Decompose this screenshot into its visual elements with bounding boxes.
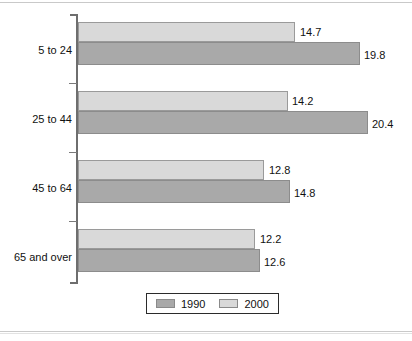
bar-5-to-24-2000[interactable] [78,22,295,42]
bar-65-and-over-1990[interactable] [78,249,260,272]
category-label-25-to-44: 25 to 44 [4,113,72,125]
frame-bottom-rule-secondary [0,333,412,334]
value-label-45-to-64-1990: 14.8 [294,187,315,199]
axis-top-cap [70,14,78,16]
legend-label-2000: 2000 [244,298,268,310]
value-label-25-to-44-2000: 14.2 [292,95,313,107]
dark-swatch-icon [156,299,175,308]
bar-65-and-over-2000[interactable] [78,229,255,249]
bar-5-to-24-1990[interactable] [78,42,360,65]
value-label-65-and-over-2000: 12.2 [260,233,281,245]
axis-tick-2 [69,152,77,153]
legend-label-1990: 1990 [181,298,205,310]
value-label-65-and-over-1990: 12.6 [264,256,285,268]
frame-bottom-rule [0,331,412,332]
category-label-65-and-over: 65 and over [4,251,72,263]
value-label-5-to-24-1990: 19.8 [364,49,385,61]
axis-tick-1 [69,83,77,84]
category-label-5-to-24: 5 to 24 [4,44,72,56]
legend-item-1990[interactable]: 1990 [156,298,205,310]
chart-container: 5 to 24 14.7 19.8 25 to 44 14.2 20.4 45 … [0,0,412,341]
axis-bottom-cap [70,282,78,284]
light-swatch-icon [219,299,238,308]
value-label-5-to-24-2000: 14.7 [300,26,321,38]
chart-legend: 1990 2000 [146,293,279,314]
bar-25-to-44-1990[interactable] [78,111,368,134]
value-label-45-to-64-2000: 12.8 [269,164,290,176]
value-label-25-to-44-1990: 20.4 [372,118,393,130]
bar-25-to-44-2000[interactable] [78,91,288,111]
legend-item-2000[interactable]: 2000 [219,298,268,310]
plot-area: 5 to 24 14.7 19.8 25 to 44 14.2 20.4 45 … [0,0,412,290]
bar-45-to-64-1990[interactable] [78,180,290,203]
category-label-45-to-64: 45 to 64 [4,182,72,194]
axis-tick-3 [69,221,77,222]
bar-45-to-64-2000[interactable] [78,160,264,180]
